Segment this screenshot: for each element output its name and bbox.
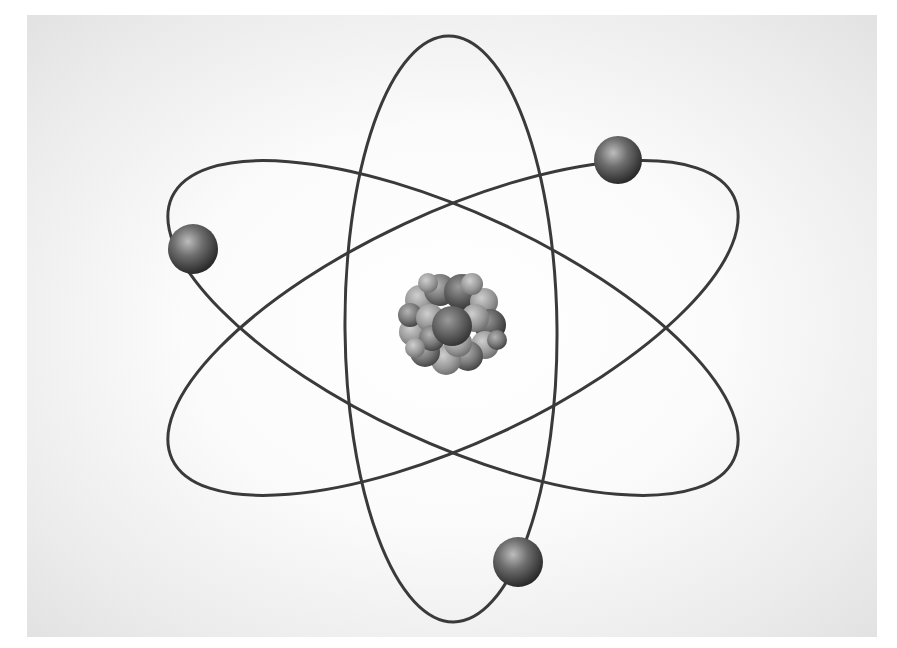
electron-bottom	[493, 537, 543, 587]
electrons	[168, 136, 642, 587]
electron-top-right	[594, 136, 642, 184]
atom-illustration	[0, 0, 897, 648]
nucleus	[398, 273, 507, 375]
electron-left	[168, 224, 218, 274]
